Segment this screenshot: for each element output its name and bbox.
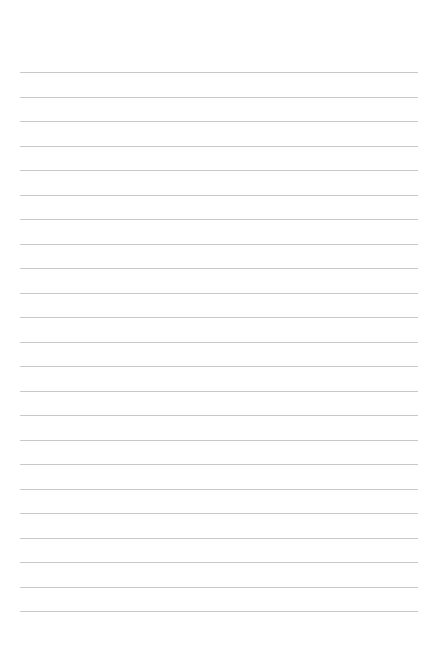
ruled-line <box>20 562 418 563</box>
ruled-line <box>20 268 418 269</box>
ruled-line <box>20 219 418 220</box>
ruled-line <box>20 72 418 73</box>
ruled-line <box>20 489 418 490</box>
lined-paper-page <box>0 0 438 648</box>
ruled-line <box>20 611 418 612</box>
ruled-line <box>20 244 418 245</box>
ruled-line <box>20 146 418 147</box>
ruled-line <box>20 464 418 465</box>
ruled-line <box>20 538 418 539</box>
ruled-line <box>20 513 418 514</box>
ruled-line <box>20 317 418 318</box>
ruled-line <box>20 342 418 343</box>
ruled-line <box>20 293 418 294</box>
ruled-line <box>20 97 418 98</box>
ruled-line <box>20 587 418 588</box>
ruled-line <box>20 415 418 416</box>
ruled-line <box>20 391 418 392</box>
ruled-line <box>20 170 418 171</box>
ruled-line <box>20 195 418 196</box>
ruled-line <box>20 121 418 122</box>
ruled-line <box>20 366 418 367</box>
ruled-line <box>20 440 418 441</box>
